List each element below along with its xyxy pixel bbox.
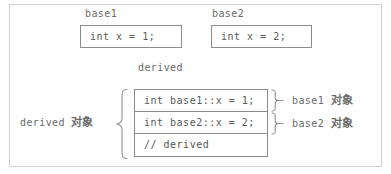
base2-class-label: base2 [212,8,244,20]
derived-object-label: derived 对象 [20,117,93,129]
derived-row-base2: int base2::x = 2; [135,112,267,134]
base2-subobject-annotation-text: base2 对象 [292,118,353,129]
base2-code-text: int x = 2; [212,26,311,47]
base1-subobject-annotation: base1 对象 [292,95,353,107]
derived-class-label: derived [138,62,183,74]
base2-subobject-brace-icon [271,112,284,135]
base2-code-box: int x = 2; [211,25,312,48]
base1-code-box: int x = 1; [80,25,182,48]
derived-object-label-text: derived 对象 [20,117,93,128]
derived-row-own: // derived [135,134,267,156]
derived-row-base1: int base1::x = 1; [135,90,267,112]
base2-subobject-annotation: base2 对象 [292,118,353,130]
derived-object-brace-icon [112,88,130,160]
base1-subobject-annotation-text: base1 对象 [292,95,353,106]
base1-code-text: int x = 1; [81,26,181,47]
base1-class-label: base1 [85,8,117,20]
derived-layout-stack: int base1::x = 1; int base2::x = 2; // d… [134,89,268,157]
diagram-root: base1 int x = 1; base2 int x = 2; derive… [0,0,391,174]
base1-subobject-brace-icon [271,89,284,112]
